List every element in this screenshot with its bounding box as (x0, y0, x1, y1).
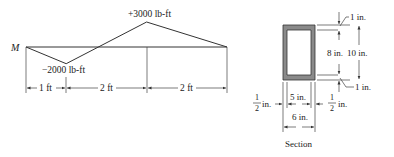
beam-diagram: M +3000 lb-ft −2000 lb-ft 1 ft 2 ft 2 ft (0, 0, 394, 157)
span-label-2: 2 ft (100, 83, 113, 93)
cross-section: 1 in. 8 in. 10 in. 1 in. 5 in. 1 2 in. 1… (253, 12, 371, 149)
right-web-den: 2 (330, 104, 334, 113)
moment-curve (26, 22, 227, 64)
moment-diagram: M +3000 lb-ft −2000 lb-ft 1 ft 2 ft 2 ft (10, 9, 227, 93)
outer-width-label: 6 in. (292, 112, 308, 122)
span-label-3: 2 ft (180, 83, 193, 93)
inner-width-label: 5 in. (290, 92, 306, 102)
span-label-1: 1 ft (39, 83, 52, 93)
inner-height-label: 8 in. (327, 48, 343, 58)
span-dimension-3: 2 ft (148, 83, 226, 93)
moment-axis-label: M (10, 42, 20, 53)
outer-height-label: 10 in. (347, 48, 368, 58)
right-web-num: 1 (330, 93, 334, 102)
right-web-unit: in. (338, 99, 347, 109)
left-web-unit: in. (262, 99, 271, 109)
min-moment-label: −2000 lb-ft (42, 65, 85, 75)
left-web-den: 2 (255, 104, 259, 113)
top-flange-label: 1 in. (350, 12, 366, 22)
max-moment-label: +3000 lb-ft (128, 9, 171, 19)
section-caption: Section (285, 139, 312, 149)
bottom-flange-label: 1 in. (355, 82, 371, 92)
span-dimension-2: 2 ft (67, 83, 146, 93)
span-dimension-1: 1 ft (27, 83, 65, 93)
left-web-num: 1 (255, 93, 259, 102)
box-section-shape (283, 25, 315, 80)
